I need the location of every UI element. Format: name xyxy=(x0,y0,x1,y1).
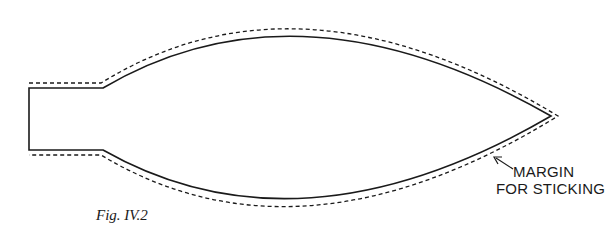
sticking-margin-outline xyxy=(29,29,558,207)
margin-label: MARGIN FOR STICKING xyxy=(513,163,605,197)
margin-arrow xyxy=(494,157,513,169)
envelope-outline xyxy=(29,36,551,198)
figure-caption: Fig. IV.2 xyxy=(96,207,148,224)
margin-label-line1: MARGIN xyxy=(513,163,605,180)
margin-label-line2: FOR STICKING xyxy=(496,180,605,197)
